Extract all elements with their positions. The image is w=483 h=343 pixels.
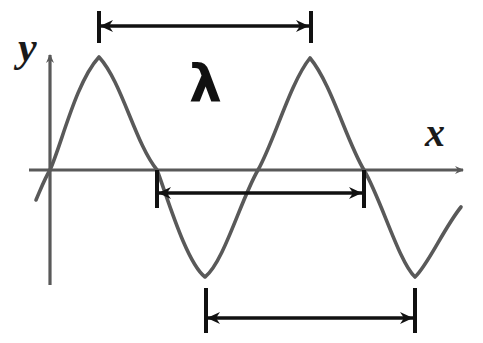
- sine-wave-curve: [36, 57, 461, 277]
- wavelength-diagram: y x λ: [0, 0, 483, 343]
- y-axis-label: y: [18, 26, 37, 68]
- diagram-canvas: [0, 0, 483, 343]
- x-axis-label: x: [425, 113, 445, 153]
- annotation-crest-to-crest: [99, 11, 311, 43]
- annotation-trough-to-trough: [206, 288, 415, 333]
- sine-wave-group: [36, 57, 461, 277]
- annotation-zero-to-zero: [157, 170, 364, 208]
- wavelength-lambda-label: λ: [189, 57, 222, 109]
